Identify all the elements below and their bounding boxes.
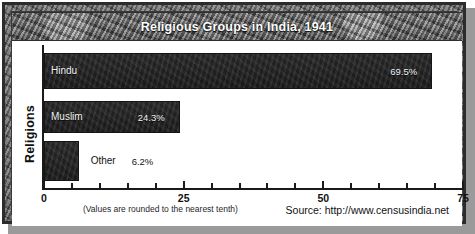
x-tick-15 [127, 183, 129, 189]
x-tick-55 [350, 183, 352, 189]
x-tick-50 [322, 181, 324, 190]
bar-label-muslim: Muslim [51, 111, 83, 122]
x-axis-line [42, 188, 464, 190]
source-credit: Source: http://www.censusindia.net [286, 204, 449, 216]
y-axis-label-text: Religions [23, 105, 37, 163]
y-axis-label: Religions [22, 89, 38, 179]
x-tick-70 [434, 183, 436, 189]
chart-figure: Religious Groups in India, 1941 Religion… [0, 0, 475, 234]
x-tick-20 [155, 183, 157, 189]
x-tick-label-75: 75 [457, 192, 469, 204]
bar-value-hindu: 69.5% [390, 66, 417, 77]
x-tick-30 [211, 183, 213, 189]
x-tick-label-50: 50 [317, 192, 329, 204]
bar-other [44, 141, 79, 181]
x-tick-60 [378, 183, 380, 189]
bar-label-other: Other [91, 155, 116, 166]
x-tick-25 [183, 181, 185, 190]
x-tick-40 [266, 183, 268, 189]
plot-area: Religions 0255075 Hindu69.5%Muslim24.3%O… [12, 41, 462, 226]
stone-frame: Religious Groups in India, 1941 Religion… [2, 2, 466, 224]
bar-label-hindu: Hindu [51, 65, 77, 76]
x-tick-10 [99, 183, 101, 189]
chart-title: Religious Groups in India, 1941 [141, 20, 333, 34]
x-tick-45 [294, 183, 296, 189]
x-tick-label-25: 25 [178, 192, 190, 204]
x-tick-35 [239, 183, 241, 189]
x-tick-5 [71, 183, 73, 189]
bar-value-muslim: 24.3% [138, 112, 165, 123]
bar-value-other: 6.2% [132, 156, 154, 167]
values-note: (Values are rounded to the nearest tenth… [83, 204, 238, 214]
bar-hindu [44, 53, 432, 89]
x-tick-0 [43, 181, 45, 190]
x-tick-65 [406, 183, 408, 189]
title-banner: Religious Groups in India, 1941 [12, 12, 462, 41]
x-tick-75 [462, 181, 464, 190]
x-tick-label-0: 0 [41, 192, 47, 204]
